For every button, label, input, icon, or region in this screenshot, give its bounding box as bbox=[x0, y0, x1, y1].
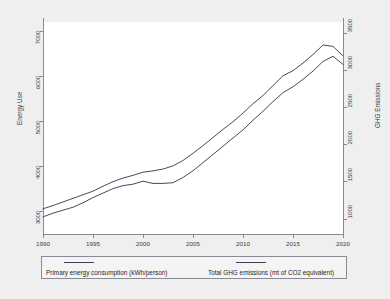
chart-figure: 3000400050006000700010001500200025003000… bbox=[0, 0, 390, 299]
y-tick-label-right: 1500 bbox=[346, 153, 353, 181]
chart-canvas bbox=[0, 0, 390, 299]
y-tick-label-left: 5000 bbox=[34, 121, 41, 149]
y-tick-label-left: 4000 bbox=[34, 166, 41, 194]
legend-swatch-energy bbox=[64, 262, 94, 263]
y-tick-label-right: 3500 bbox=[346, 5, 353, 33]
y-axis-right-title: GHG Emissions bbox=[374, 83, 381, 128]
legend-label-energy: Primary energy consumption (kWh/person) bbox=[46, 269, 167, 276]
series-line-energy bbox=[43, 45, 343, 209]
series-lines bbox=[43, 45, 343, 217]
y-tick-label-left: 3000 bbox=[34, 211, 41, 239]
y-tick-label-right: 3000 bbox=[346, 42, 353, 70]
x-tick-label: 2005 bbox=[184, 240, 202, 247]
x-tick-label: 2000 bbox=[134, 240, 152, 247]
x-tick-label: 2015 bbox=[284, 240, 302, 247]
y-tick-label-right: 2500 bbox=[346, 79, 353, 107]
x-tick-label: 2020 bbox=[334, 240, 352, 247]
y-tick-label-left: 7000 bbox=[34, 31, 41, 59]
axis-lines bbox=[43, 18, 343, 234]
legend-label-ghg: Total GHG emissions (mt of CO2 equivalen… bbox=[208, 269, 334, 276]
x-tick-label: 1995 bbox=[84, 240, 102, 247]
y-axis-left-title: Energy Use bbox=[16, 92, 23, 125]
y-tick-label-left: 6000 bbox=[34, 76, 41, 104]
y-tick-label-right: 2000 bbox=[346, 116, 353, 144]
tick-marks bbox=[40, 31, 347, 237]
y-tick-label-right: 1000 bbox=[346, 191, 353, 219]
chart-legend: Primary energy consumption (kWh/person) … bbox=[41, 256, 347, 279]
legend-swatch-ghg bbox=[236, 262, 266, 263]
x-tick-label: 2010 bbox=[234, 240, 252, 247]
x-tick-label: 1990 bbox=[34, 240, 52, 247]
